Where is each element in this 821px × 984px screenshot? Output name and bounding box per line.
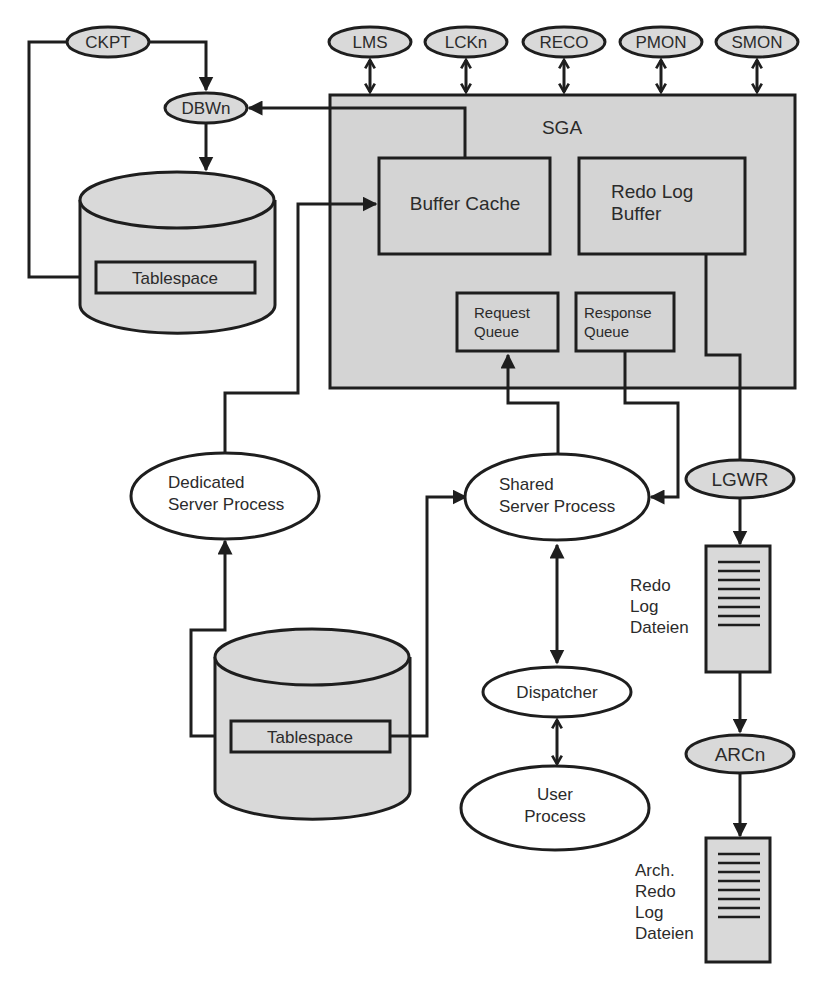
request-queue-label-line1: Request [474, 304, 531, 321]
process-lms-label: LMS [353, 33, 388, 52]
process-reco-label: RECO [539, 33, 588, 52]
process-smon: SMON [716, 27, 798, 92]
tablespace-top-label: Tablespace [132, 269, 218, 288]
redo-log-buffer-label-line1: Redo Log [611, 181, 693, 202]
process-arcn: ARCn [686, 735, 794, 773]
redo-log-files-label-line3: Dateien [630, 618, 689, 637]
shared-server-label-line1: Shared [499, 475, 554, 494]
process-lms: LMS [329, 27, 411, 92]
redo-log-buffer-label-line2: Buffer [611, 203, 662, 224]
process-reco: RECO [523, 27, 605, 92]
buffer-cache-label: Buffer Cache [410, 193, 521, 214]
user-process: User Process [461, 766, 649, 850]
response-queue-label-line1: Response [584, 304, 652, 321]
oracle-architecture-diagram: SGA Buffer Cache Redo Log Buffer Request… [0, 0, 821, 984]
user-process-label-line2: Process [524, 807, 585, 826]
process-arcn-label: ARCn [715, 744, 766, 765]
process-pmon: PMON [620, 27, 702, 92]
request-queue-box: Request Queue [457, 293, 558, 351]
response-queue-label-line2: Queue [584, 323, 629, 340]
request-queue-label-line2: Queue [474, 323, 519, 340]
ckpt-to-dbwn-arrow [149, 42, 206, 90]
process-lgwr-label: LGWR [712, 469, 769, 490]
datafile-top-cylinder: Tablespace [80, 172, 275, 333]
redo-log-files-label-line2: Log [630, 597, 658, 616]
process-lgwr: LGWR [686, 460, 794, 498]
process-lckn: LCKn [425, 27, 507, 92]
archived-redo-log-files-label-line3: Log [635, 903, 663, 922]
process-dbwn: DBWn [165, 93, 247, 123]
shared-server-process: Shared Server Process [465, 454, 649, 540]
dedicated-server-process: Dedicated Server Process [131, 453, 319, 539]
response-queue-box: Response Queue [576, 293, 674, 351]
process-dbwn-label: DBWn [181, 99, 230, 118]
dispatcher-label: Dispatcher [516, 683, 598, 702]
archived-redo-log-files-label-line4: Dateien [635, 924, 694, 943]
datafile-bottom-cylinder: Tablespace [215, 629, 410, 819]
dispatcher: Dispatcher [483, 667, 631, 717]
buffer-cache-box: Buffer Cache [379, 158, 550, 254]
process-pmon-label: PMON [636, 33, 687, 52]
redo-log-files [706, 546, 770, 672]
process-ckpt-label: CKPT [85, 33, 130, 52]
dedicated-server-label-line1: Dedicated [168, 473, 245, 492]
process-lckn-label: LCKn [445, 33, 488, 52]
archived-redo-log-files-label-line2: Redo [635, 882, 676, 901]
shared-server-label-line2: Server Process [499, 497, 615, 516]
process-smon-label: SMON [732, 33, 783, 52]
archived-redo-log-files [706, 838, 770, 962]
dedicated-server-label-line2: Server Process [168, 495, 284, 514]
tablespace-bottom-label: Tablespace [267, 728, 353, 747]
archived-redo-log-files-label-line1: Arch. [635, 861, 675, 880]
redo-log-buffer-box: Redo Log Buffer [579, 158, 745, 254]
sga-label: SGA [542, 117, 582, 138]
redo-log-files-label-line1: Redo [630, 576, 671, 595]
user-process-label-line1: User [537, 785, 573, 804]
process-ckpt: CKPT [67, 27, 149, 57]
